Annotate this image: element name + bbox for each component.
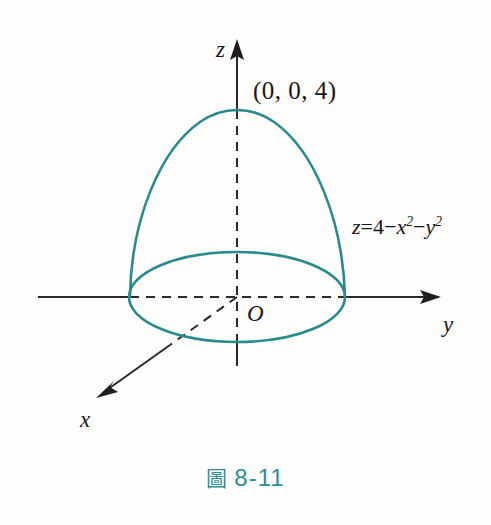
paraboloid-outline <box>130 110 345 297</box>
apex-point-label: (0, 0, 4) <box>253 78 337 103</box>
equation-x-term: x <box>396 214 406 239</box>
paraboloid-diagram <box>0 0 491 525</box>
equation-z-term: z <box>352 214 361 239</box>
y-axis-label: y <box>443 313 453 336</box>
x-axis-hidden-segment <box>170 297 237 345</box>
surface-equation-label: z=4−x2−y2 <box>352 216 442 238</box>
x-axis-visible-segment <box>104 345 170 392</box>
equation-x-exponent: 2 <box>406 214 413 229</box>
figure-caption-number: 8-11 <box>234 464 284 491</box>
equation-y-exponent: 2 <box>435 214 442 229</box>
equation-minus-second: − <box>413 214 425 239</box>
figure-caption-mark: 圖 <box>206 467 228 491</box>
origin-label: O <box>247 302 264 325</box>
equation-minus-first: − <box>384 214 396 239</box>
x-axis-label: x <box>80 408 90 431</box>
equation-equals-sign: = <box>361 214 373 239</box>
equation-y-term: y <box>425 214 435 239</box>
z-axis-label: z <box>216 38 225 61</box>
figure-container: z y x O (0, 0, 4) z=4−x2−y2 圖8-11 <box>0 0 491 525</box>
equation-constant: 4 <box>373 214 384 239</box>
figure-caption: 圖8-11 <box>0 462 491 492</box>
